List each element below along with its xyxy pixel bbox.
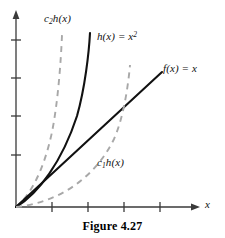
label-c1-rest: h(x) bbox=[106, 156, 124, 168]
figure-container: c2h(x) h(x) = x2 f(x) = x c1h(x) x Figur… bbox=[0, 0, 225, 238]
figure-caption: Figure 4.27 bbox=[0, 219, 225, 234]
label-c2-rest: h(x) bbox=[53, 12, 71, 24]
label-c2-h-of-x: c2h(x) bbox=[44, 13, 71, 25]
curve-fx bbox=[16, 72, 162, 207]
label-hx-exponent: 2 bbox=[133, 30, 137, 39]
x-axis-label: x bbox=[205, 199, 210, 210]
curve-hx bbox=[16, 33, 90, 207]
curve-c2h bbox=[16, 35, 62, 207]
x-axis-arrowhead bbox=[191, 204, 200, 211]
label-fx-text: f(x) = x bbox=[163, 62, 197, 74]
label-f-of-x-equals-x: f(x) = x bbox=[163, 63, 197, 74]
y-axis-arrowhead bbox=[13, 10, 20, 19]
label-hx-lead: h(x) = x bbox=[97, 30, 133, 42]
label-c1-h-of-x: c1h(x) bbox=[97, 157, 124, 169]
label-h-of-x-equals-x-squared: h(x) = x2 bbox=[97, 31, 137, 42]
